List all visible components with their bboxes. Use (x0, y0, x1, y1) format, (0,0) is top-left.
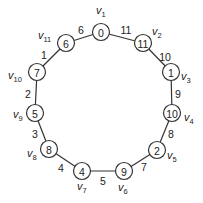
vertex-name-label: v3 (181, 70, 191, 85)
vertex-name-label: v7 (77, 180, 87, 195)
edge-weight-label: 9 (175, 88, 181, 100)
edge-weight-label: 1 (41, 49, 47, 61)
vertex-value: 2 (154, 145, 160, 157)
vertex-value: 0 (98, 27, 104, 39)
vertex-name-label: v11 (38, 29, 51, 44)
vertex-name-label: v8 (27, 147, 37, 162)
vertex-value: 7 (34, 67, 40, 79)
vertex-name-label: v9 (13, 108, 23, 123)
cycle-graph-diagram: 1110987543216 0111102948576 v1v2v3v4v5v6… (0, 0, 203, 203)
vertex-name-label: v5 (167, 149, 177, 164)
graph-canvas: 1110987543216 0111102948576 v1v2v3v4v5v6… (0, 0, 203, 203)
edge-weight-label: 11 (121, 24, 132, 36)
vertex-name-label: v1 (96, 4, 106, 19)
vertex-value: 1 (168, 67, 174, 79)
vertex-name-label: v4 (184, 111, 194, 126)
edge-weight-label: 6 (78, 24, 84, 36)
edge-weight-label: 7 (141, 161, 147, 173)
edge-labels: 1110987543216 (25, 24, 181, 187)
vertex-name-label: v2 (152, 25, 162, 40)
vertex-name-label: v10 (8, 69, 22, 84)
edge-weight-label: 10 (159, 51, 171, 63)
edge-weight-label: 8 (168, 128, 174, 140)
vertex-value: 11 (138, 38, 149, 50)
vertex-value: 10 (166, 108, 178, 120)
edge-weight-label: 2 (25, 88, 31, 100)
vertex-value: 9 (121, 166, 127, 178)
edge-weight-label: 5 (100, 175, 106, 187)
vertex-value: 4 (79, 166, 85, 178)
edge-weight-label: 4 (58, 162, 64, 174)
vertex-name-label: v6 (118, 181, 128, 196)
edge-weight-label: 3 (32, 128, 38, 140)
vertex-value: 5 (32, 108, 38, 120)
vertex-value: 6 (63, 38, 69, 50)
vertex-value: 8 (46, 144, 52, 156)
nodes: 0111102948576 (27, 24, 181, 180)
